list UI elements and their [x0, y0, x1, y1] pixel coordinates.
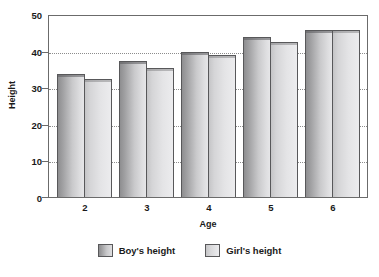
x-axis-line — [48, 197, 368, 198]
bar-group — [57, 15, 113, 198]
x-tick-label: 3 — [144, 202, 149, 213]
bar-girl[interactable] — [270, 42, 298, 198]
legend-label: Girl's height — [226, 245, 281, 256]
y-tick-label: 0 — [16, 193, 42, 204]
x-tick-label: 5 — [268, 202, 273, 213]
bar-girl[interactable] — [84, 79, 112, 198]
bar-group — [119, 15, 175, 198]
legend-label: Boy's height — [119, 245, 176, 256]
bar-girl[interactable] — [208, 55, 236, 198]
bar-boy[interactable] — [57, 74, 85, 198]
y-tick-label: 20 — [16, 119, 42, 130]
bar-boy[interactable] — [243, 37, 271, 198]
y-tick-label: 40 — [16, 46, 42, 57]
x-tick-label: 2 — [82, 202, 87, 213]
bar-girl[interactable] — [146, 68, 174, 198]
bar-chart: Height 50 40 30 20 10 0 — [0, 0, 379, 277]
legend-item-boys[interactable]: Boy's height — [98, 244, 176, 257]
y-axis-tick-labels: 50 40 30 20 10 0 — [16, 0, 42, 210]
bar-girl[interactable] — [332, 30, 360, 198]
girl-swatch-icon — [205, 244, 220, 257]
bar-group — [305, 15, 361, 198]
x-tick-label: 6 — [330, 202, 335, 213]
bars-layer — [48, 15, 368, 198]
bar-group — [181, 15, 237, 198]
boy-swatch-icon — [98, 244, 113, 257]
y-tick-label: 10 — [16, 156, 42, 167]
x-axis-title: Age — [48, 219, 368, 229]
y-tick-label: 50 — [16, 10, 42, 21]
x-axis-tick-labels: 2 3 4 5 6 — [48, 202, 368, 218]
bar-group — [243, 15, 299, 198]
legend-item-girls[interactable]: Girl's height — [205, 244, 281, 257]
bar-boy[interactable] — [305, 30, 333, 198]
chart-legend: Boy's height Girl's height — [0, 244, 379, 257]
bar-boy[interactable] — [119, 61, 147, 198]
x-tick-label: 4 — [206, 202, 211, 213]
y-tick-label: 30 — [16, 83, 42, 94]
bar-boy[interactable] — [181, 52, 209, 198]
